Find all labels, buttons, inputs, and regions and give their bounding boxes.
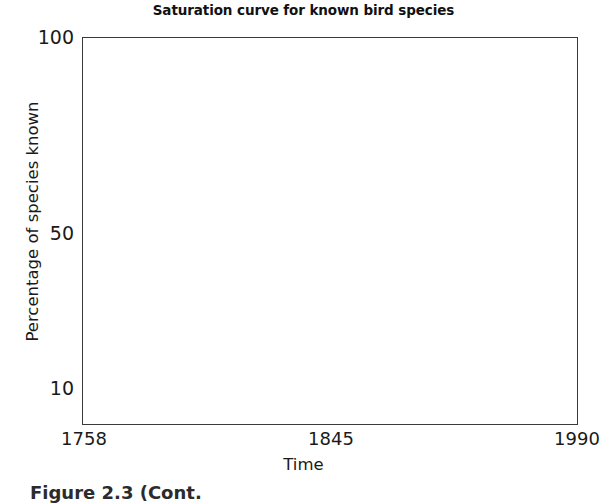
figure-caption: Figure 2.3 (Cont. (30, 482, 202, 503)
plot-frame (82, 37, 578, 425)
plot-area (82, 37, 578, 425)
y-tick-label-10: 10 (22, 377, 74, 399)
y-axis-label: Percentage of species known (23, 77, 42, 367)
x-tick-label-1845: 1845 (303, 428, 359, 449)
x-tick-label-1758: 1758 (56, 428, 112, 449)
y-tick-label-100: 100 (22, 26, 74, 48)
chart-title: Saturation curve for known bird species (0, 2, 607, 18)
x-axis-label: Time (0, 455, 607, 474)
x-tick-label-1990: 1990 (549, 428, 605, 449)
